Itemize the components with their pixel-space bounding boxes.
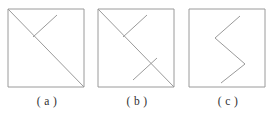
figure-b-lower-segment (133, 58, 157, 80)
figure-panel: ( a ) ( b ) ( c ) (0, 0, 272, 120)
figure-a-short-segment (33, 15, 57, 37)
figure-b-main-diagonal (98, 9, 174, 87)
figure-b-caption: ( b ) (92, 92, 182, 110)
figure-c-drawing (188, 8, 266, 88)
figure-group-a: ( a ) (2, 0, 92, 120)
figure-group-b: ( b ) (92, 0, 182, 120)
figure-c-caption: ( c ) (183, 92, 272, 110)
figure-a-caption: ( a ) (2, 92, 92, 110)
figure-b-upper-segment (123, 15, 147, 37)
figure-group-c: ( c ) (183, 0, 272, 120)
figure-a-drawing (7, 8, 85, 88)
figure-a-main-diagonal (8, 9, 84, 87)
figure-c-zigzag-polyline (215, 16, 245, 83)
figure-b-drawing (97, 8, 175, 88)
